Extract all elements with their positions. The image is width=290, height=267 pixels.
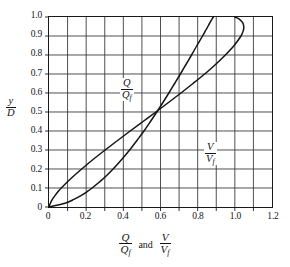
x-tick-label: 0 [33,212,63,222]
x-axis-label-conjunction: and [134,239,156,250]
y-axis-label-denominator: D [6,108,16,119]
x-tick-label: 0.6 [146,212,176,222]
x-axis-label-fraction-q: Q Qf [119,232,131,257]
x-tick-label: 0.2 [71,212,101,222]
y-tick-label: 0.7 [10,69,42,79]
y-axis-label-numerator: y [6,96,16,108]
x-axis-label-fraction-v: V Vf [160,232,171,257]
curve-label-velocity-ratio: V Vf [204,142,217,165]
curve-label-v-fraction: V Vf [205,142,216,165]
x-tick-label: 0.8 [183,212,213,222]
y-tick-label: 1.0 [10,11,42,21]
x-tick-label: 1.2 [258,212,288,222]
x-axis-label-q-denominator: Qf [119,244,131,257]
x-tick-label: 1.0 [221,212,251,222]
plot-area [48,16,273,208]
y-tick-label: 0.2 [10,165,42,175]
curve-label-discharge-ratio: Q Qf [120,78,134,101]
curve-label-q-denominator: Qf [121,90,133,101]
curve-label-q-fraction: Q Qf [121,78,133,101]
y-axis-label-fraction: y D [6,96,16,118]
y-tick-label: 0.1 [10,184,42,194]
y-tick-label: 0.4 [10,126,42,136]
chart-figure: 00.10.20.30.40.50.60.70.80.91.0 00.20.40… [0,0,290,267]
y-tick-label: 0.9 [10,30,42,40]
x-axis-label-v-denominator: Vf [160,244,171,257]
y-tick-label: 0.8 [10,49,42,59]
curve-label-v-denominator: Vf [205,154,216,165]
y-tick-label: 0.3 [10,145,42,155]
x-tick-label: 0.4 [108,212,138,222]
y-axis-label: y D [6,96,16,118]
x-axis-label: Q Qf and V Vf [0,232,290,257]
axis-ticks [49,17,272,207]
